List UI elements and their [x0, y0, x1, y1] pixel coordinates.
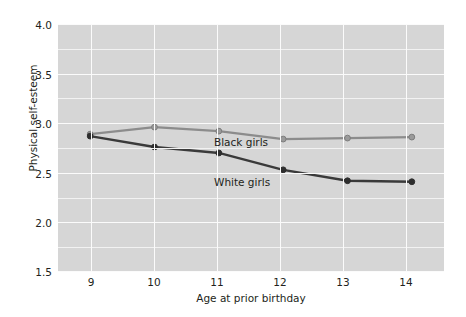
x-tick-label-10: 10 [139, 277, 169, 288]
gridline-y-3.75 [58, 49, 444, 50]
gridline-y-4.0 [58, 24, 444, 25]
gridline-y-3.5 [58, 74, 444, 75]
x-axis-title: Age at prior birthday [58, 292, 444, 304]
gridline-x-13 [343, 24, 344, 272]
data-point [345, 135, 351, 141]
x-tick-label-9: 9 [76, 277, 106, 288]
data-point [409, 134, 415, 140]
data-point [409, 179, 415, 185]
y-tick-label-1.5: 1.5 [18, 267, 52, 278]
gridline-x-11 [217, 24, 218, 272]
gridline-x-9 [91, 24, 92, 272]
gridline-y-2.0 [58, 222, 444, 223]
x-tick-label-11: 11 [202, 277, 232, 288]
y-tick-label-4.0: 4.0 [18, 20, 52, 31]
x-tick-label-13: 13 [328, 277, 358, 288]
y-tick-label-2.0: 2.0 [18, 218, 52, 229]
gridline-y-1.5 [58, 271, 444, 272]
x-tick-label-14: 14 [391, 277, 421, 288]
plot-area: Black girls White girls [58, 24, 444, 272]
gridline-y-2.25 [58, 198, 444, 199]
gridline-y-2.5 [58, 173, 444, 174]
x-tick-label-12: 12 [265, 277, 295, 288]
gridline-y-3.25 [58, 98, 444, 99]
series-label-black-girls: Black girls [214, 137, 268, 148]
gridline-x-10 [154, 24, 155, 272]
gridline-y-2.75 [58, 148, 444, 149]
data-point [280, 136, 286, 142]
gridline-y-3.0 [58, 123, 444, 124]
gridline-y-1.75 [58, 247, 444, 248]
data-point [345, 178, 351, 184]
series-label-white-girls: White girls [214, 177, 270, 188]
chart-figure: Black girls White girls 4.0 3.5 3.0 2.5 … [0, 0, 466, 317]
gridline-x-12 [280, 24, 281, 272]
gridline-x-14 [406, 24, 407, 272]
y-axis-title: Physical self-esteem [27, 38, 39, 198]
